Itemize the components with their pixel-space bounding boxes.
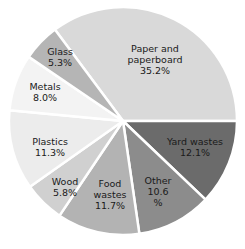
slice-label-glass: Glass5.3% <box>47 46 73 68</box>
slice-label-wood: Wood5.8% <box>52 176 79 198</box>
pie-chart-svg: Paper andpaperboard35.2%Yard wastes12.1%… <box>0 0 245 249</box>
slice-label-metals: Metals8.0% <box>29 81 60 103</box>
pie-chart: Paper andpaperboard35.2%Yard wastes12.1%… <box>0 0 245 249</box>
slice-label-plastics: Plastics11.3% <box>32 136 68 158</box>
